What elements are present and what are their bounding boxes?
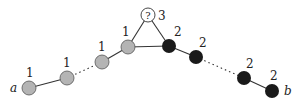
black-node — [189, 50, 203, 64]
gray-nodes — [22, 40, 135, 95]
node-label: 2 — [246, 57, 254, 71]
node-label: 2 — [174, 25, 182, 39]
gray-node — [95, 55, 109, 69]
black-node — [237, 71, 251, 85]
question-symbol: ? — [145, 10, 150, 21]
node-label: 1 — [98, 40, 106, 54]
node-label: 1 — [63, 56, 71, 70]
node-label: 1 — [122, 25, 130, 39]
dotted-edge — [196, 57, 244, 78]
endpoint-a-label: a — [10, 81, 17, 95]
endpoint-b-label: b — [284, 84, 292, 98]
question-node-label: 3 — [158, 9, 166, 23]
gray-node — [22, 81, 36, 95]
node-label: 1 — [26, 66, 34, 80]
black-nodes — [162, 39, 279, 98]
black-node — [162, 39, 176, 53]
black-node — [265, 84, 279, 98]
node-label: 2 — [270, 69, 278, 83]
gray-node — [121, 40, 135, 54]
gray-node — [60, 71, 74, 85]
graph-diagram: ? 3 1 1 1 1 2 2 2 2 a b — [0, 0, 298, 103]
node-label: 2 — [199, 36, 207, 50]
